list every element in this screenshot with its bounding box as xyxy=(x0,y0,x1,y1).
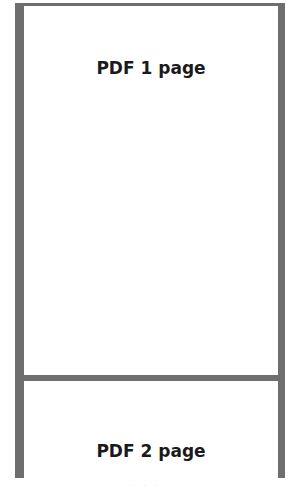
pdf-page-2[interactable]: PDF 2 page xyxy=(24,381,278,478)
page-indicator: · · · xyxy=(133,482,161,488)
page-2-label: PDF 2 page xyxy=(24,441,278,461)
pdf-page-1[interactable]: PDF 1 page xyxy=(24,6,278,375)
page-1-label: PDF 1 page xyxy=(24,58,278,78)
pdf-viewer[interactable]: PDF 1 page PDF 2 page xyxy=(15,3,285,478)
footer: · · · xyxy=(0,478,294,489)
